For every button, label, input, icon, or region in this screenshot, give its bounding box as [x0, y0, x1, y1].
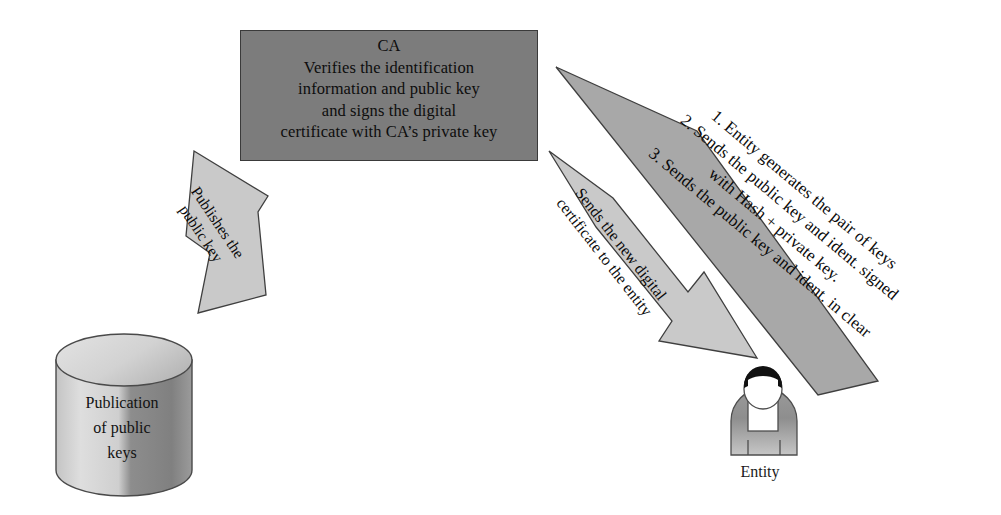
database-label-line-2: of public	[58, 415, 186, 440]
ca-box-line-2: Verifies the identification	[241, 57, 537, 79]
ca-box-line-3: information and public key	[241, 78, 537, 100]
diagram-canvas: CA Verifies the identification informati…	[0, 0, 1001, 515]
database-label-line-1: Publication	[58, 390, 186, 415]
database-label-line-3: keys	[58, 440, 186, 465]
ca-box: CA Verifies the identification informati…	[240, 30, 538, 161]
database-label: Publication of public keys	[58, 390, 186, 465]
ca-box-line-5: certificate with CA’s private key	[241, 121, 537, 143]
ca-box-line-4: and signs the digital	[241, 100, 537, 122]
ca-box-line-1: CA	[241, 35, 537, 57]
entity-label: Entity	[700, 463, 820, 481]
entity-person-icon	[731, 366, 797, 455]
